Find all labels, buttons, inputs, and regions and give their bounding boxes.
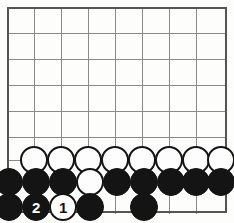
go-board-diagram: 21	[0, 0, 234, 223]
black-row-b9	[207, 168, 234, 196]
black-row-b3	[49, 168, 77, 196]
black-move-2: 2	[22, 193, 50, 221]
black-row-b5	[103, 168, 131, 196]
black-row-c4	[76, 193, 104, 221]
black-row-c6	[130, 193, 158, 221]
white-move-1: 1	[49, 193, 77, 221]
black-row-b7	[157, 168, 185, 196]
move-number-label: 2	[32, 200, 40, 215]
white-row-b4	[76, 168, 104, 196]
move-number-label: 1	[59, 200, 67, 215]
black-row-b6	[130, 168, 158, 196]
black-row-b2	[22, 168, 50, 196]
black-row-b8	[182, 168, 210, 196]
